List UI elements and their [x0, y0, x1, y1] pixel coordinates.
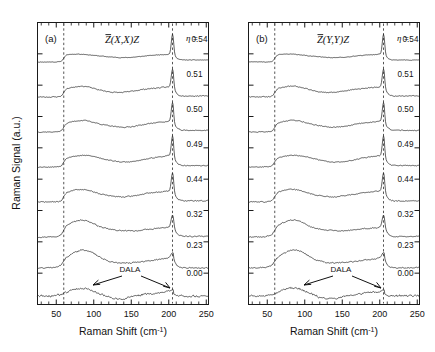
svg-text:DALA: DALA — [120, 265, 142, 274]
svg-text:η: η — [397, 33, 402, 43]
spectrum-trace-eta-0.49 — [38, 136, 209, 168]
panel-a-x-ticklabels: 50100150200250 — [51, 309, 214, 319]
eta-value-label: 0.51 — [398, 70, 414, 79]
panel-b-eta-labels: 0.540.510.500.490.440.320.230.00 — [398, 35, 419, 278]
panel-a: 50100150200250 0.540.510.500.490.440.320… — [38, 23, 214, 320]
spectrum-trace-eta-0.44 — [38, 173, 209, 202]
eta-value-label: 0.50 — [187, 105, 203, 114]
eta-value-label: 0.23 — [398, 241, 414, 250]
eta-value-label: 0.00 — [187, 269, 203, 278]
x-ticklabel: 200 — [161, 309, 176, 319]
spectrum-trace-eta-0.32 — [38, 215, 209, 238]
spectrum-trace-eta-0.50 — [38, 102, 209, 132]
eta-value-label: 0.32 — [187, 210, 203, 219]
panel-a-spectra — [38, 34, 209, 300]
x-ticklabel: 250 — [199, 309, 214, 319]
panel-a-x-ticks — [41, 23, 206, 305]
figure-container: 50100150200250 0.540.510.500.490.440.320… — [0, 0, 435, 352]
eta-value-label: 0.44 — [187, 175, 203, 184]
x-title-main-a: Raman Shift (cm — [79, 325, 157, 337]
y-axis-title-text: Raman Signal (a.u.) — [10, 116, 22, 209]
dala-arrow-left — [304, 276, 333, 285]
panel-a-eta-labels: 0.540.510.500.490.440.320.230.00 — [187, 35, 208, 278]
svg-text:=: = — [193, 34, 198, 43]
panel-a-tag: (a) — [45, 33, 57, 44]
svg-text:Raman Shift (cm-1): Raman Shift (cm-1) — [290, 325, 378, 337]
spectrum-trace-eta-0.32 — [249, 215, 420, 237]
eta-value-label: 0.23 — [187, 241, 203, 250]
panel-a-marker-lines — [64, 24, 173, 304]
eta-value-label: 0.32 — [398, 210, 414, 219]
svg-text:Raman Shift (cm-1): Raman Shift (cm-1) — [79, 325, 167, 337]
panel-b-x-ticklabels: 50100150200250 — [262, 309, 425, 319]
panel-b-marker-lines — [275, 24, 384, 304]
svg-text:Z(Y,Y)Z: Z(Y,Y)Z — [317, 34, 349, 46]
eta-value-label: 0.51 — [187, 70, 203, 79]
eta-value-label: 0.49 — [398, 140, 414, 149]
panel-b-configuration-label: Z(Y,Y)Z — [317, 34, 349, 46]
dala-arrow-right — [352, 276, 381, 288]
raman-spectra-figure: 50100150200250 0.540.510.500.490.440.320… — [0, 0, 435, 352]
panel-b-x-ticks — [252, 23, 417, 305]
x-ticklabel: 150 — [335, 309, 350, 319]
x-ticklabel: 250 — [410, 309, 425, 319]
eta-value-label: 0.44 — [398, 175, 414, 184]
panel-a-dala-annotation: DALA — [93, 265, 170, 288]
panel-b: 50100150200250 0.540.510.500.490.440.320… — [249, 23, 425, 320]
x-title-tail-b: ) — [374, 325, 378, 337]
x-axis-title-a: Raman Shift (cm-1) — [79, 325, 167, 337]
svg-text:η: η — [186, 33, 191, 43]
spectrum-trace-eta-0.49 — [249, 136, 420, 167]
x-ticklabel: 50 — [262, 309, 272, 319]
panel-b-spectra — [249, 34, 420, 299]
y-axis-title: Raman Signal (a.u.) — [10, 116, 22, 209]
spectrum-trace-eta-0.44 — [249, 173, 420, 203]
spectrum-trace-eta-0.51 — [38, 69, 209, 97]
x-title-tail-a: ) — [163, 325, 167, 337]
spectrum-trace-eta-0.00 — [38, 288, 209, 300]
dala-arrow-left — [93, 276, 122, 285]
spectrum-trace-eta-0.51 — [249, 69, 420, 97]
svg-text:DALA: DALA — [331, 265, 353, 274]
dala-arrow-right — [141, 276, 170, 288]
svg-text:=: = — [404, 34, 409, 43]
eta-value-label: 0.50 — [398, 105, 414, 114]
spectrum-trace-eta-0.00 — [249, 287, 420, 299]
x-ticklabel: 50 — [51, 309, 61, 319]
panel-a-configuration-label: Z(X,X)Z — [105, 34, 139, 46]
panel-b-tag: (b) — [256, 33, 268, 44]
x-ticklabel: 100 — [86, 309, 101, 319]
eta-value-label: 0.00 — [398, 269, 414, 278]
x-ticklabel: 100 — [297, 309, 312, 319]
x-title-main-b: Raman Shift (cm — [290, 325, 368, 337]
x-ticklabel: 150 — [124, 309, 139, 319]
x-ticklabel: 200 — [372, 309, 387, 319]
eta-value-label: 0.49 — [187, 140, 203, 149]
x-axis-title-b: Raman Shift (cm-1) — [290, 325, 378, 337]
svg-text:Z(X,X)Z: Z(X,X)Z — [105, 34, 139, 46]
panel-b-dala-annotation: DALA — [304, 265, 381, 288]
spectrum-trace-eta-0.50 — [249, 102, 420, 132]
